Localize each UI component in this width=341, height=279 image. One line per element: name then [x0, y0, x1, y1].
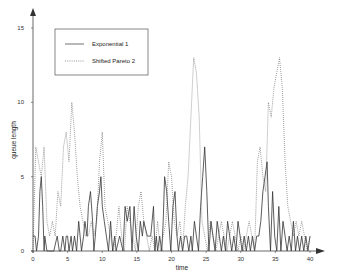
legend-box [55, 29, 148, 75]
series-exponential-line [33, 147, 310, 251]
legend-label-pareto: Shifted Pareto 2 [92, 58, 136, 64]
y-ticks: 051015 [17, 25, 33, 254]
y-axis-label: queue length [10, 121, 18, 159]
x-tick-label: 15 [134, 256, 141, 262]
x-tick-label: 0 [31, 256, 35, 262]
queue-length-chart: 0510152025303540 051015 time queue lengt… [0, 0, 341, 279]
x-tick-label: 20 [168, 256, 175, 262]
x-tick-label: 25 [203, 256, 210, 262]
x-tick-label: 40 [307, 256, 314, 262]
series-shifted-pareto-line [33, 58, 310, 251]
x-tick-label: 10 [99, 256, 106, 262]
y-axis-arrow-icon [30, 8, 36, 16]
x-ticks: 0510152025303540 [31, 251, 314, 262]
y-tick-label: 15 [17, 25, 24, 31]
y-tick-label: 0 [21, 248, 25, 254]
plot-series [33, 58, 310, 251]
x-axis-label: time [176, 264, 189, 271]
x-tick-label: 5 [66, 256, 70, 262]
y-tick-label: 10 [17, 99, 24, 105]
x-tick-label: 30 [237, 256, 244, 262]
y-tick-label: 5 [21, 174, 25, 180]
x-tick-label: 35 [272, 256, 279, 262]
x-axis-arrow-icon [316, 248, 325, 254]
legend-label-exponential: Exponential 1 [92, 41, 129, 47]
legend: Exponential 1 Shifted Pareto 2 [55, 29, 148, 75]
